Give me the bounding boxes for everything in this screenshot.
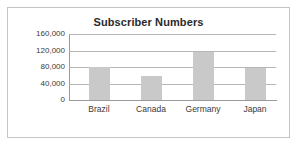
bar-germany [193, 52, 214, 100]
x-axis-label-germany: Germany [173, 104, 233, 114]
x-axis-label-japan: Japan [225, 104, 285, 114]
bar-japan [245, 68, 266, 100]
bar-brazil [89, 67, 110, 100]
y-axis-tick-label: 160,000 [8, 30, 65, 38]
bar-series [69, 34, 276, 100]
plot-area [69, 34, 276, 100]
x-axis-line [69, 100, 277, 101]
y-axis-tick-label: 0 [8, 96, 65, 104]
y-axis-tick-labels: 160,000 120,000 80,000 40,000 0 [8, 34, 65, 100]
y-axis-tick-label: 40,000 [8, 80, 65, 88]
x-axis-label-brazil: Brazil [69, 104, 129, 114]
y-axis-tick-label: 80,000 [8, 63, 65, 71]
y-axis-tick-label: 120,000 [8, 47, 65, 55]
x-axis-label-canada: Canada [121, 104, 181, 114]
chart-title: Subscriber Numbers [8, 16, 289, 28]
bar-canada [141, 76, 162, 100]
chart-container: Subscriber Numbers 160,000 120,000 80,00… [7, 7, 290, 138]
x-axis-tick-labels: Brazil Canada Germany Japan [69, 104, 276, 118]
